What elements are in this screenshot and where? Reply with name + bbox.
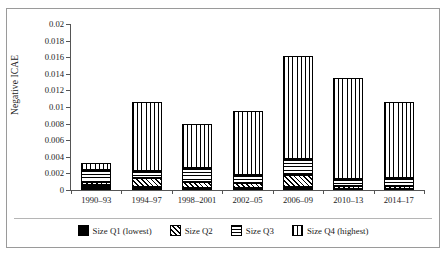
legend-item[interactable]: Size Q4 (highest) <box>292 225 369 236</box>
x-tick-label: 1998–2001 <box>172 195 222 205</box>
y-tick-label: 0.016 <box>22 53 64 61</box>
x-tick-mark <box>222 190 223 194</box>
chart-legend: Size Q1 (lowest)Size Q2Size Q3Size Q4 (h… <box>14 218 432 239</box>
bar-column <box>182 24 212 190</box>
figure-root: Negative ICAE 00.0020.0040.0060.0080.010… <box>0 0 448 258</box>
bar-segment <box>233 175 263 182</box>
bar-segment <box>132 102 162 171</box>
stacked-bar <box>132 102 162 190</box>
legend-label: Size Q4 (highest) <box>307 226 369 236</box>
bar-segment <box>233 111 263 175</box>
bar-segment <box>182 124 212 169</box>
x-tick-label: 2002–05 <box>222 195 272 205</box>
bar-segment <box>283 175 313 187</box>
plot-bars <box>71 24 424 190</box>
x-tick-mark <box>374 190 375 194</box>
stacked-bar <box>333 78 363 190</box>
x-tick-label: 2006–09 <box>273 195 323 205</box>
bar-segment <box>81 163 111 170</box>
bar-segment <box>132 178 162 187</box>
legend-swatch-icon <box>170 225 181 236</box>
bar-segment <box>333 179 363 186</box>
x-axis-line <box>70 190 424 191</box>
stacked-bar <box>384 102 414 190</box>
bar-segment <box>81 170 111 182</box>
bar-column <box>132 24 162 190</box>
bar-segment <box>333 186 363 189</box>
x-tick-label: 1994–97 <box>121 195 171 205</box>
bar-column <box>333 24 363 190</box>
legend-item[interactable]: Size Q3 <box>231 225 274 236</box>
legend-swatch-icon <box>292 225 303 236</box>
stacked-bar <box>283 56 313 190</box>
y-tick-label: 0.002 <box>22 169 64 177</box>
bar-segment <box>182 168 212 181</box>
legend-swatch-icon <box>78 225 89 236</box>
x-tick-mark <box>71 190 72 194</box>
bar-column <box>81 24 111 190</box>
stacked-bar <box>81 163 111 190</box>
y-tick-label: 0.004 <box>22 153 64 161</box>
legend-item[interactable]: Size Q1 (lowest) <box>78 225 152 236</box>
y-tick-label: 0.012 <box>22 86 64 94</box>
x-tick-mark <box>121 190 122 194</box>
y-tick-label: 0.02 <box>22 20 64 28</box>
bar-column <box>283 24 313 190</box>
x-tick-mark <box>424 190 425 194</box>
y-tick-label: 0 <box>22 186 64 194</box>
stacked-bar <box>233 111 263 190</box>
bar-segment <box>132 187 162 190</box>
x-tick-label: 1990–93 <box>71 195 121 205</box>
legend-swatch-icon <box>231 225 242 236</box>
bar-segment <box>384 102 414 178</box>
bar-segment <box>333 78 363 179</box>
bar-segment <box>384 186 414 189</box>
bar-segment <box>283 187 313 190</box>
bar-column <box>233 24 263 190</box>
bar-column <box>384 24 414 190</box>
x-tick-mark <box>273 190 274 194</box>
bar-segment <box>233 183 263 189</box>
bar-segment <box>283 56 313 159</box>
x-tick-mark <box>172 190 173 194</box>
stacked-bar <box>182 124 212 190</box>
bar-segment <box>132 171 162 178</box>
y-tick-label: 0.014 <box>22 70 64 78</box>
bar-segment <box>81 182 111 185</box>
y-tick-label: 0.018 <box>22 37 64 45</box>
legend-item[interactable]: Size Q2 <box>170 225 213 236</box>
bar-segment <box>283 159 313 175</box>
legend-label: Size Q3 <box>246 226 274 236</box>
legend-label: Size Q2 <box>185 226 213 236</box>
y-tick-label: 0.01 <box>22 103 64 111</box>
bar-segment <box>81 185 111 190</box>
x-tick-label: 2010–13 <box>323 195 373 205</box>
bar-segment <box>384 178 414 185</box>
x-tick-label: 2014–17 <box>374 195 424 205</box>
legend-label: Size Q1 (lowest) <box>93 226 152 236</box>
x-tick-mark <box>323 190 324 194</box>
y-tick-label: 0.008 <box>22 120 64 128</box>
bar-segment <box>182 182 212 189</box>
y-tick-label: 0.006 <box>22 136 64 144</box>
chart-area: Negative ICAE 00.0020.0040.0060.0080.010… <box>0 0 448 258</box>
